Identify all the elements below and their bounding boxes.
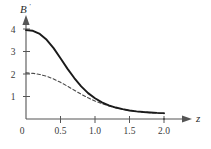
chart-figure: B ′ z 1 2 3 4 0 0.5 1.0 1.5 2.0: [0, 0, 211, 149]
x-tick-label-1p0: 1.0: [89, 126, 101, 136]
y-axis-prime-symbol: ′: [29, 2, 31, 10]
x-tick-label-0p5: 0.5: [55, 126, 67, 136]
dashed-series-path: [26, 73, 164, 114]
x-tick-label-1p5: 1.5: [124, 126, 136, 136]
x-tick-label-0: 0: [20, 126, 25, 136]
y-tick-label-4: 4: [11, 25, 16, 35]
y-tick-label-3: 3: [11, 47, 16, 57]
y-tick-label-2: 2: [11, 70, 16, 80]
y-tick-label-1: 1: [11, 92, 16, 102]
y-axis-label: B: [20, 3, 27, 15]
x-axis-label: z: [195, 112, 201, 124]
x-axis-arrow-icon: [182, 115, 192, 122]
x-tick-label-2p0: 2.0: [158, 126, 170, 136]
line-chart-svg: B ′ z 1 2 3 4 0 0.5 1.0 1.5 2.0: [0, 0, 211, 149]
y-axis-arrow-icon: [22, 15, 29, 25]
